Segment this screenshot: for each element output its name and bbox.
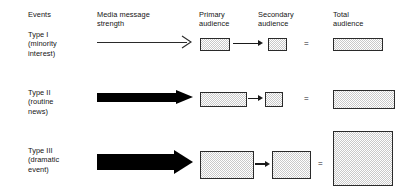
primary-audience-box-type-1 <box>200 38 230 51</box>
mini-arrow-tip <box>265 161 270 167</box>
mini-arrow-shaft <box>233 43 258 44</box>
equals-sign-type-3: = <box>318 160 323 168</box>
secondary-audience-box-type-2 <box>265 92 283 107</box>
equals-sign-type-2: = <box>304 95 309 103</box>
total-audience-box-type-1 <box>333 38 383 51</box>
column-header-media-strength: Media message strength <box>97 10 150 28</box>
media-strength-arrow-type-2 <box>97 93 193 102</box>
equals-sign-type-1: = <box>304 40 309 48</box>
arrow-shaft <box>97 42 187 43</box>
diagram-canvas: Events Media message strength Primary au… <box>0 0 401 191</box>
primary-to-secondary-arrow-type-2 <box>248 92 263 105</box>
total-audience-box-type-3 <box>333 131 393 186</box>
arrow-tip <box>176 90 193 104</box>
primary-audience-box-type-2 <box>200 92 247 107</box>
primary-to-secondary-arrow-type-1 <box>233 38 263 49</box>
arrow-head-open <box>180 35 194 49</box>
mini-arrow-tip <box>258 40 263 46</box>
arrow-body <box>97 154 175 170</box>
column-header-total-audience: Total audience <box>333 10 363 28</box>
primary-audience-box-type-3 <box>200 151 254 179</box>
column-header-secondary-audience: Secondary audience <box>258 10 294 28</box>
column-header-primary-audience: Primary audience <box>199 10 229 28</box>
arrow-tip <box>174 150 193 174</box>
media-strength-arrow-type-1 <box>97 36 193 48</box>
row-label-type-1: Type I (minority interest) <box>28 30 57 58</box>
mini-arrow-tip <box>258 95 263 101</box>
secondary-audience-box-type-1 <box>268 38 287 51</box>
mini-arrow-shaft <box>255 163 265 164</box>
secondary-audience-box-type-3 <box>272 151 311 179</box>
row-label-type-3: Type III (dramatic event) <box>28 146 59 174</box>
total-audience-box-type-2 <box>333 90 395 109</box>
arrow-body <box>97 93 177 102</box>
column-header-events: Events <box>28 10 51 19</box>
mini-arrow-shaft <box>248 98 258 99</box>
row-label-type-2: Type II (routine news) <box>28 88 53 116</box>
media-strength-arrow-type-3 <box>97 154 193 170</box>
primary-to-secondary-arrow-type-3 <box>255 151 270 177</box>
